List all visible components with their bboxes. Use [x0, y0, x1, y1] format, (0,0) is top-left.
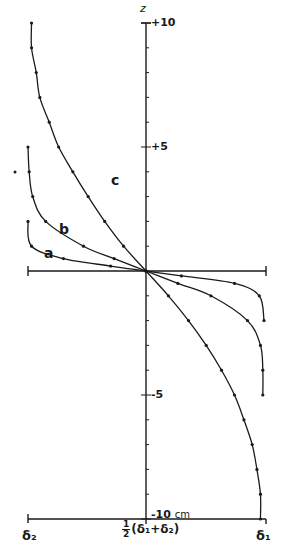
fraction-denominator: 2: [122, 530, 130, 539]
z-axis-label: z: [140, 2, 146, 15]
data-point-c: [167, 294, 170, 297]
data-point-b: [26, 145, 29, 148]
axes: [28, 23, 266, 524]
midpoint-expression: (δ₁+δ₂): [131, 522, 179, 536]
data-point-c: [30, 21, 33, 24]
half-fraction: 12: [122, 520, 130, 539]
tick-label-plus-10: +10: [151, 16, 176, 29]
data-point-c: [103, 220, 106, 223]
data-point-c: [251, 443, 254, 446]
tick-unit: cm: [175, 509, 190, 520]
x-label-midpoint: 12(δ₁+δ₂): [122, 520, 179, 539]
data-point-a: [180, 274, 183, 277]
data-point-b: [82, 245, 85, 248]
x-label-delta1: δ₁: [256, 528, 271, 543]
data-point-c: [122, 245, 125, 248]
data-point-b: [261, 369, 264, 372]
data-point-c: [35, 71, 38, 74]
data-point-c: [48, 121, 51, 124]
curve-label-c: c: [111, 172, 119, 188]
data-point-b: [246, 319, 249, 322]
data-point-c: [71, 170, 74, 173]
data-point-b: [176, 282, 179, 285]
data-point-a: [233, 282, 236, 285]
data-point-c: [242, 418, 245, 421]
data-point-c: [30, 46, 33, 49]
data-point-b: [113, 257, 116, 260]
data-point-c: [255, 468, 258, 471]
data-point-b: [209, 294, 212, 297]
data-point-c: [57, 145, 60, 148]
data-point-c: [259, 517, 262, 520]
data-point-c: [187, 319, 190, 322]
data-point-a: [258, 294, 261, 297]
data-point-b: [28, 170, 31, 173]
data-point-c: [144, 269, 147, 272]
data-point-a: [30, 245, 33, 248]
data-point-b: [31, 195, 34, 198]
data-point-b: [259, 344, 262, 347]
data-point-b: [44, 220, 47, 223]
data-point-c: [38, 96, 41, 99]
x-label-delta2: δ₂: [22, 528, 37, 543]
data-point-b: [261, 393, 264, 396]
tick-label-plus-5: +5: [151, 140, 168, 153]
data-point-a: [109, 264, 112, 267]
data-point-c: [87, 195, 90, 198]
tick-label-minus-5: -5: [151, 388, 163, 401]
data-point-c: [233, 393, 236, 396]
data-point-a: [262, 319, 265, 322]
curve-label-b: b: [59, 221, 69, 237]
data-point-c: [205, 344, 208, 347]
figure-canvas: [0, 0, 291, 549]
data-point-c: [259, 493, 262, 496]
data-point-a: [62, 257, 65, 260]
data-point-c: [220, 369, 223, 372]
curve-label-a: a: [44, 245, 53, 261]
stray-dot: [14, 171, 17, 174]
data-point-a: [26, 220, 29, 223]
